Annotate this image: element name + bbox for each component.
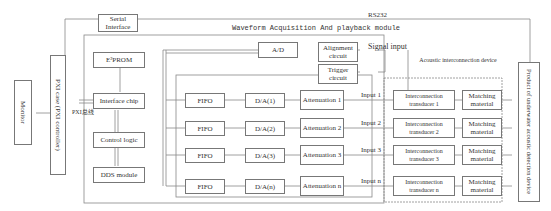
da-box: D/A(3) [245,148,285,163]
attenuation-box: Attenuation 2 [300,118,344,138]
trigger-circuit-box: Trigger circuit [318,64,358,84]
fifo-box: FIFO [185,121,225,136]
alignment-circuit-box: Alignment circuit [318,42,358,62]
matching-material-box: Matching material [462,90,502,110]
product-box: Product of underwater acoustic detection… [518,62,540,202]
da-box: D/A(1) [245,93,285,108]
input-label: Input n [361,177,381,185]
matching-material-box: Matching material [462,145,502,165]
rs232-label: RS232 [368,11,387,19]
interface-chip-box: Interface chip [93,93,145,109]
transducer-box: Interconnection transducer 1 [393,90,455,110]
da-box: D/A(n) [245,179,285,194]
input-label: Input 3 [361,146,381,154]
matching-material-box: Matching material [462,118,502,138]
fifo-box: FIFO [185,179,225,194]
transducer-box: Interconnection transducer 2 [393,118,455,138]
attenuation-box: Attenuation 1 [300,90,344,110]
control-logic-box: Control logic [93,132,145,148]
module-title: Waveform Acquisition And playback module [232,24,400,32]
fifo-box: FIFO [185,148,225,163]
da-box: D/A(2) [245,121,285,136]
input-label: Input 2 [361,119,381,127]
pxi-case-box: PXI case (PXI controller) [50,55,66,175]
attenuation-box: Attenuation 3 [300,145,344,165]
matching-material-box: Matching material [462,176,502,196]
serial-interface-box: Serial Interface [98,14,138,32]
monitor-box: Monitor [14,80,32,145]
dds-module-box: DDS module [93,167,145,183]
ad-box: A/D [258,42,298,58]
e2prom-box: E²PROM [93,52,145,68]
transducer-box: Interconnection transducer 3 [393,145,455,165]
acoustic-device-label: Acoustic interconnection device [418,56,498,64]
attenuation-box: Attenuation n [300,176,344,196]
input-label: Input 1 [361,91,381,99]
fifo-box: FIFO [185,93,225,108]
signal-input-label: Signal input [368,42,407,51]
transducer-box: Interconnection transducer n [393,176,455,196]
pxi-bus-label: PXI总线 [72,107,94,116]
